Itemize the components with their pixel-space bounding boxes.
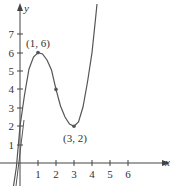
svg-text:1: 1 [9, 139, 15, 151]
cubic-curve [14, 4, 98, 186]
local-min-label: (3, 2) [63, 132, 87, 145]
svg-text:2: 2 [53, 168, 59, 180]
svg-text:6: 6 [125, 168, 131, 180]
svg-text:5: 5 [9, 65, 15, 77]
svg-text:4: 4 [9, 83, 15, 95]
local-max-point [36, 51, 40, 55]
y-axis-arrow-icon [17, 3, 23, 11]
svg-text:1: 1 [35, 168, 41, 180]
cubic-function-graph: x y 1 2 3 4 5 6 1 2 3 4 5 6 7 [0, 0, 172, 186]
inflection-point [54, 88, 58, 92]
local-min-point [72, 124, 76, 128]
svg-text:7: 7 [9, 28, 15, 40]
svg-text:6: 6 [9, 47, 15, 59]
y-axis-label: y [23, 2, 29, 14]
x-axis-label: x [164, 156, 170, 168]
local-max-label: (1, 6) [26, 37, 50, 50]
svg-text:5: 5 [107, 168, 113, 180]
svg-text:4: 4 [89, 168, 95, 180]
svg-text:2: 2 [9, 120, 15, 132]
svg-text:3: 3 [71, 168, 77, 180]
svg-text:3: 3 [9, 102, 15, 114]
x-tick-labels: 1 2 3 4 5 6 [35, 168, 131, 180]
y-tick-labels: 1 2 3 4 5 6 7 [9, 28, 15, 151]
